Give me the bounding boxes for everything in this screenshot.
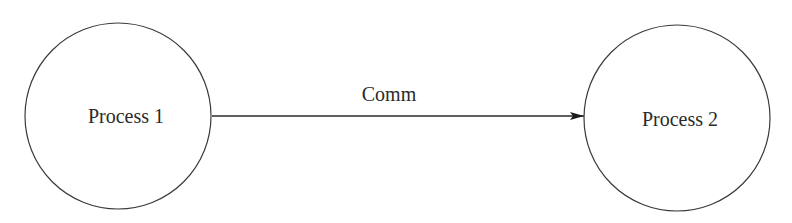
node-process-2: Process 2 — [584, 25, 770, 211]
node-process-1: Process 1 — [25, 23, 211, 209]
comm-label: Comm — [362, 83, 417, 105]
process-2-label: Process 2 — [642, 108, 718, 130]
edge-comm: Comm — [212, 83, 584, 116]
diagram-canvas: Process 1 Comm Process 2 — [0, 0, 792, 223]
process-1-label: Process 1 — [88, 105, 164, 127]
